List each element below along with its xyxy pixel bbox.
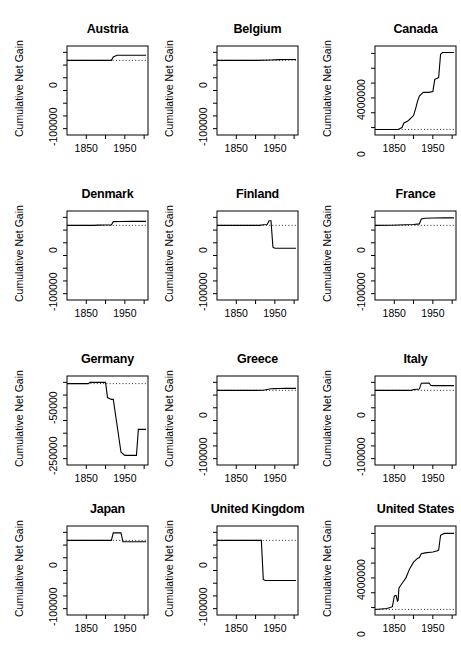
panel-japan: JapanCumulative Net Gain0-10000018501950 [0, 480, 150, 645]
plot-area [150, 480, 300, 645]
panel-austria: AustriaCumulative Net Gain0-100000185019… [0, 0, 150, 165]
data-line [375, 52, 454, 129]
plot-box [375, 46, 456, 135]
panel-greece: GreeceCumulative Net Gain0-1000001850195… [150, 330, 300, 480]
data-line [67, 221, 146, 225]
plot-area [300, 165, 461, 330]
plot-box [217, 211, 298, 300]
plot-area [0, 0, 150, 165]
panel-denmark: DenmarkCumulative Net Gain0-100000185019… [0, 165, 150, 330]
data-line [217, 221, 296, 249]
data-line [217, 59, 296, 60]
plot-area [0, 165, 150, 330]
panel-germany: GermanyCumulative Net Gain-50000-2500001… [0, 330, 150, 480]
plot-box [67, 526, 148, 615]
plot-area [150, 0, 300, 165]
panel-canada: CanadaCumulative Net Gain040000001850195… [300, 0, 461, 165]
data-line [67, 533, 146, 542]
plot-box [217, 526, 298, 615]
panel-italy: ItalyCumulative Net Gain0-10000018501950 [300, 330, 461, 480]
data-line [375, 218, 454, 225]
plot-box [217, 376, 298, 465]
data-line [217, 540, 296, 580]
plot-box [67, 211, 148, 300]
plot-area [300, 330, 461, 495]
data-line [217, 388, 296, 390]
panel-belgium: BelgiumCumulative Net Gain0-100000185019… [150, 0, 300, 165]
plot-box [67, 376, 148, 465]
plot-area [150, 165, 300, 330]
plot-box [375, 526, 456, 615]
plot-area [300, 480, 461, 645]
panel-finland: FinlandCumulative Net Gain0-100000185019… [150, 165, 300, 330]
data-line [67, 55, 146, 60]
panel-united-states: United StatesCumulative Net Gain04000000… [300, 480, 461, 645]
plot-area [0, 480, 150, 645]
data-line [67, 382, 146, 455]
plot-box [67, 46, 148, 135]
data-line [375, 533, 454, 609]
small-multiples-grid: AustriaCumulative Net Gain0-100000185019… [0, 0, 461, 645]
plot-area [0, 330, 150, 495]
plot-area [300, 0, 461, 165]
data-line [375, 383, 454, 390]
panel-france: FranceCumulative Net Gain0-1000001850195… [300, 165, 461, 330]
panel-united-kingdom: United KingdomCumulative Net Gain0-10000… [150, 480, 300, 645]
plot-area [150, 330, 300, 495]
